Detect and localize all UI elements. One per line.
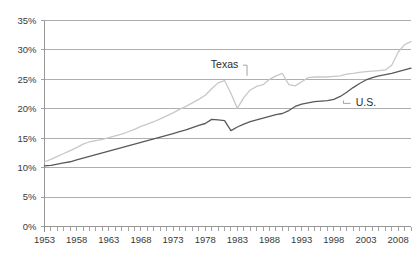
- x-tick-label: 1988: [259, 234, 280, 245]
- x-tick-label: 1958: [66, 234, 87, 245]
- leader-line-texas: [243, 65, 247, 76]
- x-tick-label: 2008: [388, 234, 409, 245]
- x-tick-label: 2003: [355, 234, 376, 245]
- x-tick-label: 1978: [195, 234, 216, 245]
- x-axis-tick-labels: 1953195819631968197319781983198819931998…: [34, 234, 409, 245]
- y-tick-label: 0%: [23, 221, 37, 232]
- series-annotations: TexasU.S.: [211, 58, 376, 108]
- y-tick-label: 30%: [17, 44, 37, 55]
- gridlines: [45, 21, 412, 198]
- x-tick-label: 1998: [323, 234, 344, 245]
- chart-container: 0%5%10%15%20%25%30%35% 19531958196319681…: [0, 0, 420, 258]
- y-axis-tick-labels: 0%5%10%15%20%25%30%35%: [17, 15, 37, 232]
- x-tick-label: 1963: [98, 234, 119, 245]
- x-tick-label: 1973: [163, 234, 184, 245]
- y-tick-label: 10%: [17, 162, 37, 173]
- x-tick-label: 1953: [34, 234, 55, 245]
- y-tick-label: 15%: [17, 133, 37, 144]
- x-tick-label: 1968: [130, 234, 151, 245]
- y-tick-label: 5%: [23, 191, 37, 202]
- leader-line-us: [343, 101, 350, 104]
- y-tick-label: 20%: [17, 103, 37, 114]
- y-axis-tick-marks: [41, 21, 45, 227]
- series-line-us: [45, 68, 412, 166]
- x-tick-label: 1983: [227, 234, 248, 245]
- annotation-label-us: U.S.: [356, 96, 376, 108]
- y-tick-label: 25%: [17, 74, 37, 85]
- x-tick-label: 1993: [291, 234, 312, 245]
- x-axis-tick-marks: [45, 227, 412, 231]
- line-chart: 0%5%10%15%20%25%30%35% 19531958196319681…: [0, 0, 420, 258]
- y-tick-label: 35%: [17, 15, 37, 26]
- annotation-label-texas: Texas: [211, 58, 238, 70]
